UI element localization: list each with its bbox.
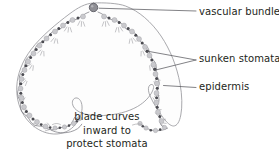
mesophyll-cell — [18, 86, 23, 91]
sunken-stoma — [21, 73, 24, 76]
label-vascular-bundle: vascular bundle — [199, 6, 279, 17]
sunken-stoma — [158, 115, 161, 118]
sunken-stoma — [32, 118, 35, 121]
caption-line-1: blade curves — [58, 110, 156, 124]
vascular-bundle-icon — [89, 3, 97, 11]
mesophyll-cell — [154, 100, 159, 105]
sunken-stoma — [66, 21, 69, 24]
sunken-stoma — [159, 128, 162, 131]
mesophyll-cell — [155, 81, 160, 86]
caption-line-3: protect stomata — [58, 137, 156, 151]
mesophyll-cell — [143, 45, 148, 50]
mesophyll-cell — [31, 51, 36, 56]
mesophyll-cell — [22, 105, 27, 110]
caption-blade-curves: blade curves inward to protect stomata — [58, 110, 156, 151]
sunken-stoma — [156, 106, 159, 109]
mesophyll-cell — [151, 62, 156, 67]
sunken-stoma — [41, 40, 44, 43]
mesophyll-cell — [43, 124, 48, 129]
mesophyll-cell — [53, 126, 57, 130]
sunken-stoma — [49, 126, 52, 129]
sunken-stoma — [155, 77, 158, 80]
mesophyll-cell — [122, 23, 127, 28]
mesophyll-cell — [27, 113, 32, 118]
sunken-stoma — [21, 101, 24, 104]
mesophyll-cell — [112, 18, 117, 23]
mesophyll-cell — [159, 119, 164, 124]
sunken-stoma — [19, 92, 22, 95]
mesophyll-cell — [37, 43, 42, 48]
sunken-stoma — [29, 56, 32, 59]
sunken-stoma — [155, 96, 158, 99]
mesophyll-cell — [26, 59, 31, 64]
sunken-stoma — [40, 123, 43, 126]
caption-line-2: inward to — [58, 124, 156, 138]
sunken-stoma — [19, 82, 22, 85]
mesophyll-cell — [70, 18, 75, 23]
sunken-stoma — [25, 64, 28, 67]
sunken-stoma — [49, 33, 52, 36]
mesophyll-cell — [53, 29, 58, 34]
mesophyll-cell — [130, 29, 135, 34]
sunken-stoma — [134, 34, 137, 37]
mesophyll-cell — [61, 23, 66, 28]
sunken-stoma — [108, 17, 111, 20]
mesophyll-cell — [156, 110, 161, 115]
sunken-stoma — [118, 21, 121, 24]
mesophyll-cell — [35, 120, 40, 125]
sunken-stoma — [77, 17, 80, 20]
leaf-cross-section-figure: vascular bundle sunken stomata epidermis… — [0, 0, 279, 157]
sunken-stoma — [156, 87, 159, 90]
mesophyll-cell — [154, 91, 159, 96]
mesophyll-cell — [19, 77, 24, 82]
sunken-stoma — [127, 27, 130, 30]
mesophyll-cell — [102, 14, 107, 19]
sunken-stoma — [150, 59, 153, 62]
vascular-bundle-group — [89, 3, 97, 11]
mesophyll-cell — [19, 96, 24, 101]
label-epidermis: epidermis — [199, 81, 249, 92]
mesophyll-cell — [22, 68, 27, 73]
sunken-stoma — [35, 48, 38, 51]
sunken-stoma — [25, 110, 28, 113]
mesophyll-cell — [81, 14, 86, 19]
mesophyll-cell — [153, 72, 158, 77]
mesophyll-cell — [137, 37, 142, 42]
mesophyll-cell — [147, 53, 152, 58]
sunken-stoma — [141, 42, 144, 45]
vascular-bundle-highlight — [91, 5, 93, 7]
mesophyll-cell — [44, 36, 49, 41]
mesophyll-cell — [162, 125, 166, 129]
label-sunken-stomata: sunken stomata — [199, 53, 279, 64]
sunken-stoma — [57, 27, 60, 30]
